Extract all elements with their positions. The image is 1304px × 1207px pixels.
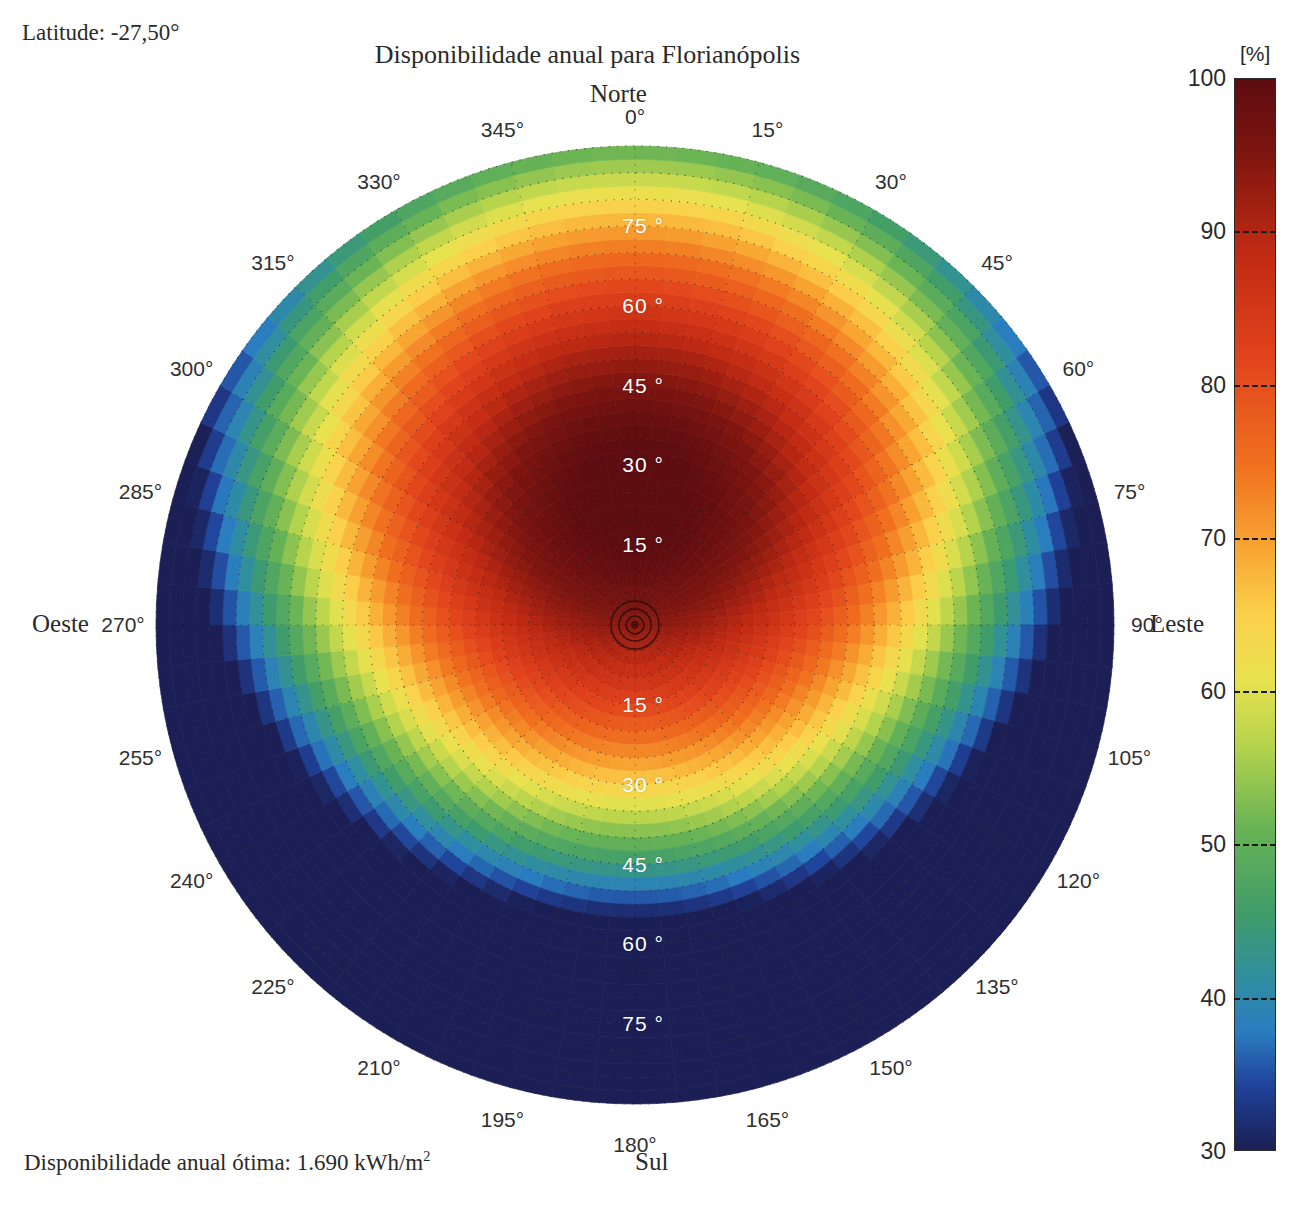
- heatmap-cell: [489, 625, 503, 638]
- heatmap-cell: [615, 837, 635, 851]
- heatmap-cell: [601, 239, 635, 254]
- heatmap-cell: [329, 625, 343, 652]
- heatmap-cell: [927, 598, 941, 625]
- azimuth-tick-label: 15°: [752, 118, 784, 142]
- heatmap-cell: [635, 332, 661, 346]
- heatmap-cell: [626, 718, 635, 732]
- heatmap-cell: [768, 625, 782, 638]
- heatmap-cell: [701, 618, 715, 625]
- heatmap-cell: [807, 625, 821, 641]
- heatmap-cell: [475, 625, 489, 639]
- colorbar-unit-label: [%]: [1240, 42, 1270, 66]
- heatmap-cell: [645, 743, 658, 758]
- heatmap-cell: [597, 186, 635, 201]
- heatmap-cell: [635, 1089, 677, 1104]
- heatmap-cell: [847, 605, 861, 625]
- heatmap-cell: [608, 917, 635, 931]
- heatmap-cell: [728, 616, 742, 625]
- heatmap-cell: [598, 1036, 635, 1051]
- heatmap-cell: [647, 756, 661, 771]
- heatmap-cell: [169, 584, 184, 625]
- heatmap-cell: [635, 399, 655, 413]
- heatmap-cell: [900, 601, 914, 625]
- heatmap-cell: [635, 359, 658, 373]
- azimuth-tick-label: 90°: [1131, 613, 1163, 637]
- heatmap-cell: [502, 625, 516, 637]
- heatmap-cell: [196, 587, 211, 625]
- heatmap-cell: [369, 625, 383, 648]
- heatmap-cell: [529, 616, 543, 625]
- heatmap-cell: [156, 625, 171, 667]
- azimuth-tick-label: 150°: [869, 1056, 912, 1080]
- heatmap-cell: [502, 635, 517, 648]
- heatmap-cell: [609, 903, 635, 917]
- heatmap-cell: [209, 625, 224, 662]
- heatmap-cell: [209, 588, 224, 625]
- heatmap-cell: [953, 596, 968, 625]
- tilt-tick-label: 60 °: [622, 932, 664, 956]
- heatmap-cell: [356, 625, 370, 649]
- colorbar-tick-label: 90: [1178, 218, 1226, 245]
- heatmap-cell: [607, 466, 622, 481]
- azimuth-tick-label: 135°: [975, 975, 1018, 999]
- heatmap-cell: [1019, 625, 1034, 660]
- heatmap-cell: [619, 797, 635, 811]
- azimuth-tick-label: 330°: [357, 170, 400, 194]
- heatmap-cell: [635, 877, 658, 891]
- heatmap-cell: [196, 625, 211, 663]
- heatmap-cell: [635, 519, 644, 533]
- heatmap-cell: [568, 625, 582, 631]
- heatmap-cell: [382, 625, 396, 647]
- heatmap-cell: [623, 744, 635, 758]
- heatmap-cell: [635, 956, 665, 971]
- heatmap-cell: [741, 625, 755, 635]
- heatmap-cell: [489, 612, 503, 625]
- colorbar-tick-mark: [1234, 998, 1276, 1000]
- heatmap-cell: [555, 625, 569, 632]
- heatmap-cell: [183, 586, 198, 625]
- heatmap-cell: [1046, 588, 1061, 625]
- heatmap-cell: [794, 625, 808, 640]
- heatmap-cell: [594, 1076, 635, 1091]
- heatmap-cell: [715, 617, 729, 625]
- heatmap-cell: [1006, 625, 1021, 659]
- colorbar-tick-label: 40: [1178, 984, 1226, 1011]
- colorbar-tick-label: 100: [1178, 65, 1226, 92]
- heatmap-cell: [953, 625, 968, 654]
- heatmap-cell: [779, 597, 794, 612]
- heatmap-cell: [423, 588, 439, 608]
- heatmap-cell: [635, 996, 669, 1011]
- heatmap-cell: [605, 279, 635, 294]
- heatmap-cell: [605, 782, 621, 797]
- colorbar-tick-mark: [1234, 385, 1276, 387]
- heatmap-cell: [781, 611, 795, 625]
- heatmap-cell: [612, 492, 625, 507]
- heatmap-cell: [515, 625, 529, 635]
- optimum-unit-exponent: 2: [423, 1148, 430, 1164]
- heatmap-cell: [635, 837, 655, 851]
- heatmap-cell: [608, 319, 635, 333]
- heatmap-cell: [601, 996, 635, 1011]
- tilt-tick-label: 30 °: [622, 773, 664, 797]
- heatmap-cell: [966, 595, 981, 625]
- heatmap-cell: [289, 595, 304, 625]
- heatmap-cell: [610, 479, 624, 494]
- heatmap-cell: [792, 639, 807, 655]
- heatmap-cell: [582, 625, 595, 630]
- colorbar-tick-mark: [1234, 231, 1276, 233]
- colorbar-tick-mark: [1234, 538, 1276, 540]
- azimuth-tick-label: 315°: [251, 251, 294, 275]
- heatmap-cell: [489, 637, 504, 651]
- heatmap-cell: [463, 595, 478, 611]
- heatmap-cell: [396, 625, 410, 646]
- heatmap-cell: [598, 199, 635, 214]
- heatmap-cell: [635, 159, 676, 174]
- heatmap-cell: [603, 983, 635, 998]
- heatmap-cell: [805, 593, 820, 610]
- heatmap-cell: [618, 425, 635, 439]
- heatmap-cell: [635, 718, 644, 732]
- heatmap-cell: [625, 505, 635, 519]
- heatmap-cell: [619, 439, 635, 453]
- heatmap-cell: [651, 808, 669, 823]
- heatmap-cell: [593, 1089, 635, 1104]
